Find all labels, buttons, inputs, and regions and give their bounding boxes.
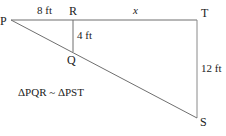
segment-PS xyxy=(11,20,197,118)
label-T: T xyxy=(201,6,209,20)
label-P: P xyxy=(0,14,7,28)
label-S: S xyxy=(200,115,207,129)
diagram-svg: P R T Q S 8 ft x 4 ft 12 ft ΔPQR ~ ΔPST xyxy=(0,0,226,136)
measure-RT: x xyxy=(132,4,138,16)
similar-triangles-diagram: P R T Q S 8 ft x 4 ft 12 ft ΔPQR ~ ΔPST xyxy=(0,0,226,136)
label-R: R xyxy=(69,4,77,18)
label-Q: Q xyxy=(67,53,76,67)
measure-RQ: 4 ft xyxy=(77,29,92,41)
measure-TS: 12 ft xyxy=(201,62,221,74)
similarity-statement: ΔPQR ~ ΔPST xyxy=(18,86,84,98)
measure-PR: 8 ft xyxy=(37,4,52,16)
